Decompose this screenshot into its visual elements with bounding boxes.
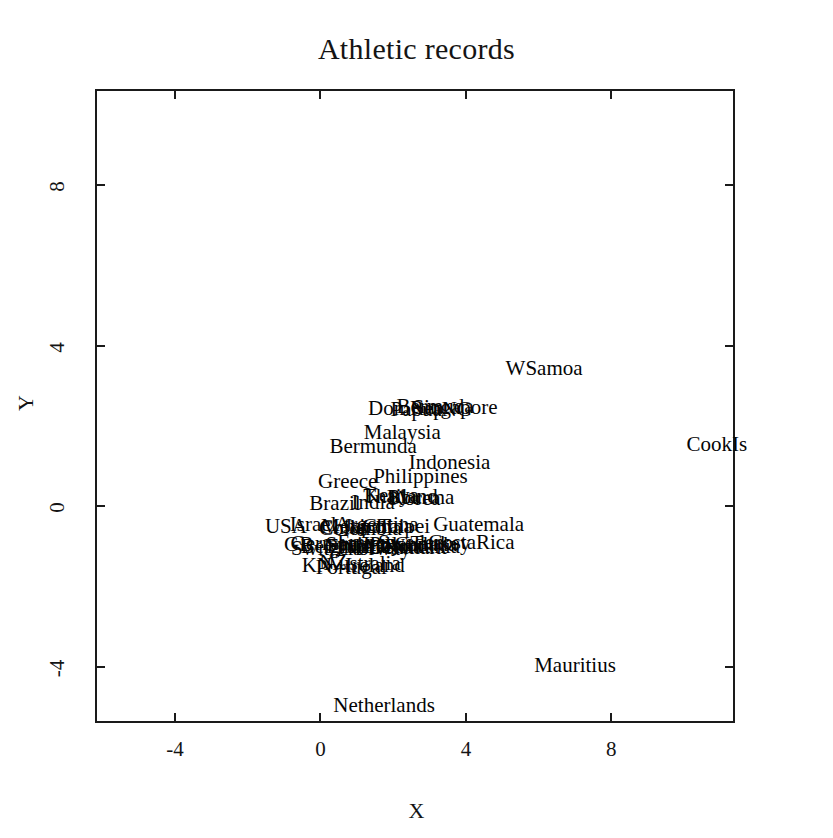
data-point-label: Bermunda bbox=[329, 436, 416, 457]
data-point-label: PapuaNG bbox=[391, 399, 473, 420]
x-axis-tick-label: 0 bbox=[290, 737, 350, 762]
x-axis-tick-label: -4 bbox=[145, 737, 205, 762]
x-axis-tick bbox=[174, 713, 176, 722]
x-axis-tick-label: 8 bbox=[581, 737, 641, 762]
y-axis-title: Y bbox=[13, 373, 39, 433]
page-title: Athletic records bbox=[0, 32, 833, 66]
x-axis-tick bbox=[319, 713, 321, 722]
y-axis-tick-right bbox=[725, 345, 734, 347]
x-axis-tick-top bbox=[465, 90, 467, 99]
data-point-label: CookIs bbox=[686, 434, 747, 455]
y-axis-tick bbox=[96, 184, 105, 186]
y-axis-tick bbox=[96, 505, 105, 507]
y-axis-tick-right bbox=[725, 666, 734, 668]
data-point-label: India bbox=[352, 492, 395, 513]
y-axis-tick bbox=[96, 345, 105, 347]
x-axis-tick-label: 4 bbox=[436, 737, 496, 762]
chart-canvas: Athletic records X Y -4048-4048WSamoaCoo… bbox=[0, 0, 833, 838]
y-axis-tick-label: 8 bbox=[45, 157, 70, 217]
data-point-label: Netherlands bbox=[333, 694, 434, 715]
data-point-label: WSamoa bbox=[506, 357, 583, 378]
y-axis-tick-label: 4 bbox=[45, 317, 70, 377]
data-point-label: Mauritius bbox=[534, 654, 616, 675]
x-axis-tick bbox=[465, 713, 467, 722]
x-axis-tick-top bbox=[610, 90, 612, 99]
x-axis-tick bbox=[610, 713, 612, 722]
y-axis-tick-right bbox=[725, 184, 734, 186]
y-axis-tick-right bbox=[725, 505, 734, 507]
data-point-label: Australia bbox=[324, 553, 401, 574]
y-axis-tick bbox=[96, 666, 105, 668]
y-axis-tick-label: 0 bbox=[45, 478, 70, 538]
x-axis-title: X bbox=[0, 798, 833, 824]
x-axis-tick-top bbox=[174, 90, 176, 99]
y-axis-tick-label: -4 bbox=[45, 638, 70, 698]
x-axis-tick-top bbox=[319, 90, 321, 99]
